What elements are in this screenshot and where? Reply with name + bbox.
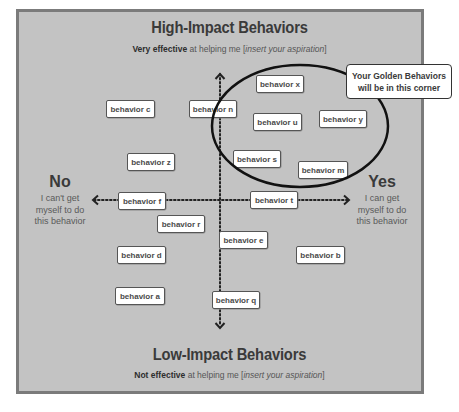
left-line-1: I can't get [20, 193, 100, 205]
behavior-box-q: behavior q [212, 291, 260, 309]
callout-line-2: will be in this corner [347, 82, 451, 94]
behavior-box-a: behavior a [115, 287, 165, 305]
left-heading: No [30, 173, 90, 191]
behavior-box-m: behavior m [298, 161, 348, 179]
top-subtitle-italic: insert your aspiration [245, 44, 324, 54]
bottom-subtitle-italic: insert your aspiration [243, 370, 322, 380]
behavior-box-d: behavior d [117, 246, 166, 264]
right-description: I can get myself to do this behavior [342, 193, 422, 228]
top-title: High-Impact Behaviors [18, 19, 440, 37]
right-line-1: I can get [342, 193, 422, 205]
left-description: I can't get myself to do this behavior [20, 193, 100, 228]
right-line-2: myself to do [342, 205, 422, 217]
behavior-box-e: behavior e [219, 231, 268, 249]
behavior-box-u: behavior u [253, 113, 302, 131]
callout-line-1: Your Golden Behaviors [347, 70, 451, 82]
behavior-box-c: behavior c [106, 100, 155, 118]
behavior-box-r: behavior r [157, 215, 205, 233]
bottom-subtitle-end: ] [322, 370, 324, 380]
behavior-box-x: behavior x [256, 75, 304, 93]
behavior-box-t: behavior t [250, 191, 298, 209]
top-subtitle-end: ] [324, 44, 326, 54]
bottom-subtitle: Not effective at helping me [insert your… [0, 370, 459, 380]
right-heading: Yes [352, 173, 412, 191]
behavior-box-b: behavior b [296, 246, 345, 264]
behavior-box-z: behavior z [127, 153, 175, 171]
behavior-box-y: behavior y [319, 110, 367, 128]
right-line-3: this behavior [342, 216, 422, 228]
left-line-3: this behavior [20, 216, 100, 228]
behavior-box-f: behavior f [118, 192, 166, 210]
bottom-title: Low-Impact Behaviors [18, 346, 440, 364]
bottom-subtitle-text: at helping me [ [185, 370, 243, 380]
bottom-subtitle-bold: Not effective [134, 370, 185, 380]
left-line-2: myself to do [20, 205, 100, 217]
top-subtitle: Very effective at helping me [insert you… [0, 44, 459, 54]
golden-behaviors-callout: Your Golden Behaviors will be in this co… [346, 64, 452, 99]
behavior-box-n: behavior n [189, 100, 237, 118]
behavior-box-s: behavior s [233, 150, 281, 168]
top-subtitle-bold: Very effective [132, 44, 187, 54]
top-subtitle-text: at helping me [ [187, 44, 245, 54]
